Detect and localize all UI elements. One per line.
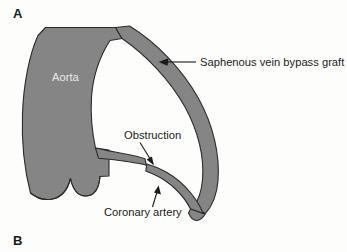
- coronary-artery-label: Coronary artery: [104, 206, 182, 218]
- graft-callout: Saphenous vein bypass graft: [159, 56, 346, 68]
- saphenous-vein-bypass-graft-shape: [116, 26, 219, 214]
- graft-label: Saphenous vein bypass graft: [200, 56, 345, 68]
- coronary-artery-arrow-head-icon: [154, 186, 161, 195]
- obstruction-label: Obstruction: [124, 129, 181, 141]
- aorta-shape: [22, 28, 122, 200]
- figure-panel-a: Saphenous vein bypass graft Obstruction …: [0, 0, 347, 252]
- obstruction-leader-line: [140, 143, 151, 160]
- panel-letter-b: B: [13, 234, 22, 247]
- coronary-artery-leader-line: [153, 192, 158, 207]
- panel-letter-a: A: [13, 7, 22, 20]
- aorta-label: Aorta: [52, 71, 80, 83]
- coronary-artery-callout: Coronary artery: [104, 186, 182, 219]
- bypass-graft-diagram: Saphenous vein bypass graft Obstruction …: [0, 0, 347, 252]
